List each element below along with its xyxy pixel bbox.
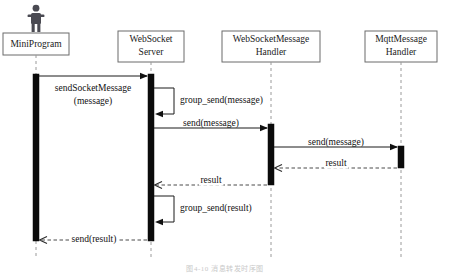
message-label: result <box>325 158 346 168</box>
message-label: send(message) <box>308 137 364 148</box>
message-arrowhead <box>155 111 163 117</box>
lifeline-label: MqttMessage <box>375 34 427 44</box>
act-wsmessage-handler[interactable] <box>268 124 274 185</box>
message-label: group_send(message) <box>180 95 263 106</box>
message-label: result <box>200 175 221 185</box>
message-self-arrow <box>154 88 174 114</box>
msg-result-mqtt-to-wsmh[interactable]: result <box>275 158 398 172</box>
message-arrowhead <box>260 125 268 131</box>
msg-send-result-to-miniprogram[interactable]: send(result) <box>40 234 148 246</box>
lifeline-label: WebSocketMessage <box>233 34 309 44</box>
message-self-arrow <box>154 196 174 222</box>
act-mqtt-handler[interactable] <box>398 146 404 168</box>
message-label: send(message) <box>183 118 239 129</box>
lifeline-label: Server <box>139 47 165 57</box>
message-label-line2: (message) <box>74 96 113 107</box>
sequence-diagram-canvas: MiniProgramWebSocketServerWebSocketMessa… <box>0 0 450 275</box>
message-arrowhead <box>155 219 163 225</box>
lifeline-label: MiniProgram <box>10 39 62 49</box>
act-miniprogram[interactable] <box>33 74 39 241</box>
message-arrowhead <box>390 144 398 150</box>
lifeline-label: Handler <box>256 47 287 57</box>
message-arrowhead <box>140 73 148 79</box>
msg-send-message-to-mqtt[interactable]: send(message) <box>274 137 398 150</box>
msg-result-wsmh-to-server[interactable]: result <box>155 175 268 189</box>
msg-send-message-to-wsmh[interactable]: send(message) <box>154 118 268 131</box>
msg-group-send-message[interactable]: group_send(message) <box>154 88 263 117</box>
msg-send-socket-message[interactable]: sendSocketMessage(message) <box>39 73 148 107</box>
uml-sequence-diagram: MiniProgramWebSocketServerWebSocketMessa… <box>0 0 450 275</box>
lifelines-group: MiniProgramWebSocketServerWebSocketMessa… <box>3 5 437 258</box>
message-label: group_send(result) <box>180 203 252 214</box>
actor-icon <box>28 5 45 32</box>
figure-caption: 图4-10 消息转发时序图 <box>0 263 450 273</box>
lifeline-label: WebSocket <box>129 34 172 44</box>
message-label: send(result) <box>72 234 117 245</box>
act-websocket-server[interactable] <box>148 74 154 241</box>
msg-group-send-result[interactable]: group_send(result) <box>154 196 252 225</box>
lifeline-label: Handler <box>386 47 417 57</box>
lifeline-mqttmessage-handler[interactable]: MqttMessageHandler <box>365 31 437 258</box>
messages-group: sendSocketMessage(message)group_send(mes… <box>39 73 398 246</box>
message-label: sendSocketMessage <box>55 83 132 93</box>
